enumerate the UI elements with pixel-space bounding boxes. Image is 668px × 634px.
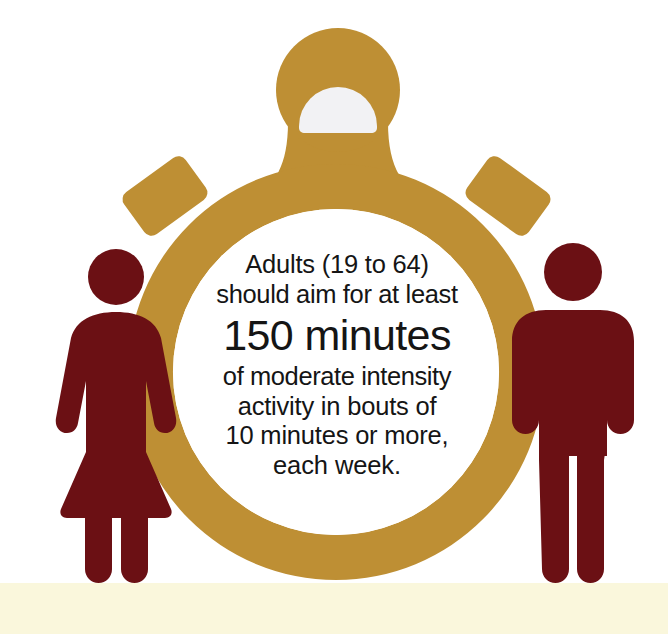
female-left-leg <box>85 518 112 583</box>
footer-band <box>0 583 668 634</box>
message-line-emphasis: 150 minutes <box>184 311 490 359</box>
infographic-poster: Adults (19 to 64) should aim for at leas… <box>0 0 668 634</box>
guideline-message: Adults (19 to 64) should aim for at leas… <box>184 250 490 481</box>
message-line-5: activity in bouts of <box>184 392 490 422</box>
female-right-leg <box>121 518 148 583</box>
message-line-6: 10 minutes or more, <box>184 421 490 451</box>
male-left-leg <box>539 440 569 583</box>
male-right-leg <box>577 440 607 583</box>
female-body <box>56 312 176 518</box>
male-head <box>544 243 602 301</box>
message-line-2: should aim for at least <box>184 280 490 310</box>
male-hip <box>539 430 607 456</box>
message-line-4: of moderate intensity <box>184 362 490 392</box>
message-line-7: each week. <box>184 451 490 481</box>
female-head <box>88 249 144 305</box>
message-line-1: Adults (19 to 64) <box>184 250 490 280</box>
